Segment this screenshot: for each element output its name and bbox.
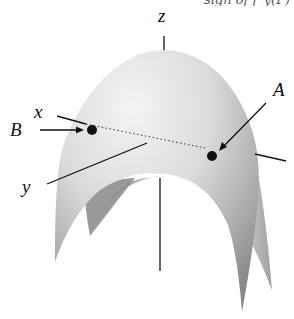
paraboloid-figure: sign of f_y(P): [0, 0, 294, 319]
point-b-dot: [87, 125, 97, 135]
x-axis-label: x: [34, 102, 42, 121]
point-a-label: A: [273, 80, 285, 99]
y-axis-label: y: [22, 177, 30, 196]
point-a-dot: [207, 151, 217, 161]
surface-diagram: [0, 0, 294, 319]
z-axis-label: z: [158, 6, 165, 25]
surface-outer: [55, 50, 259, 312]
point-b-label: B: [10, 120, 22, 139]
y-axis-right: [255, 154, 286, 161]
